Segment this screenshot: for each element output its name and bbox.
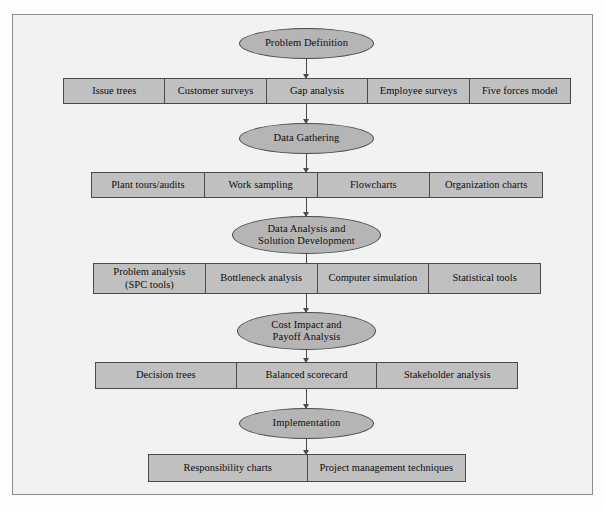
stage-label-data-gathering: Data Gathering: [268, 132, 346, 145]
stage-label-problem-definition: Problem Definition: [259, 37, 354, 50]
tool-cell-customer-surveys[interactable]: Customer surveys: [165, 79, 266, 103]
stage-label-data-analysis: Data Analysis and Solution Development: [252, 223, 361, 248]
arrow-tools-to-data-analysis: [306, 198, 307, 216]
arrow-implementation-to-tools: [306, 439, 307, 454]
diagram-canvas: Problem Definition Issue trees Customer …: [0, 0, 606, 511]
tool-cell-stakeholder-analysis[interactable]: Stakeholder analysis: [377, 363, 517, 388]
arrow-problem-definition-to-tools: [306, 59, 307, 78]
tool-cell-decision-trees[interactable]: Decision trees: [96, 363, 237, 388]
arrow-tools-to-cost-impact: [306, 294, 307, 312]
stage-ellipse-problem-definition: Problem Definition: [239, 28, 374, 59]
tool-row-implementation: Responsibility charts Project management…: [148, 454, 466, 482]
tool-cell-statistical-tools[interactable]: Statistical tools: [429, 264, 540, 293]
tool-cell-five-forces-model[interactable]: Five forces model: [470, 79, 570, 103]
diagram-frame: Problem Definition Issue trees Customer …: [12, 14, 593, 495]
tool-cell-issue-trees[interactable]: Issue trees: [64, 79, 165, 103]
stage-ellipse-cost-impact: Cost Impact and Payoff Analysis: [237, 312, 376, 350]
tool-cell-employee-surveys[interactable]: Employee surveys: [368, 79, 469, 103]
stage-label-cost-impact: Cost Impact and Payoff Analysis: [265, 319, 347, 344]
stage-label-implementation: Implementation: [267, 417, 347, 430]
stage-ellipse-implementation: Implementation: [239, 408, 374, 439]
tool-cell-organization-charts[interactable]: Organization charts: [430, 173, 542, 197]
tool-row-problem-definition: Issue trees Customer surveys Gap analysi…: [63, 78, 571, 104]
arrow-cost-impact-to-tools: [306, 350, 307, 362]
tool-cell-work-sampling[interactable]: Work sampling: [205, 173, 318, 197]
arrow-data-gathering-to-tools: [306, 154, 307, 172]
stage-ellipse-data-gathering: Data Gathering: [239, 123, 374, 154]
tool-cell-problem-analysis-spc[interactable]: Problem analysis (SPC tools): [94, 264, 206, 293]
tool-cell-computer-simulation[interactable]: Computer simulation: [318, 264, 430, 293]
tool-cell-gap-analysis[interactable]: Gap analysis: [267, 79, 368, 103]
arrow-tools-to-data-gathering: [306, 104, 307, 123]
arrow-tools-to-implementation: [306, 389, 307, 408]
tool-cell-flowcharts[interactable]: Flowcharts: [318, 173, 431, 197]
tool-cell-bottleneck-analysis[interactable]: Bottleneck analysis: [206, 264, 318, 293]
tool-cell-plant-tours-audits[interactable]: Plant tours/audits: [92, 173, 205, 197]
stage-ellipse-data-analysis: Data Analysis and Solution Development: [232, 216, 381, 254]
tool-row-data-gathering: Plant tours/audits Work sampling Flowcha…: [91, 172, 543, 198]
tool-cell-responsibility-charts[interactable]: Responsibility charts: [149, 455, 308, 481]
tool-cell-project-management-techniques[interactable]: Project management techniques: [308, 455, 466, 481]
tool-cell-balanced-scorecard[interactable]: Balanced scorecard: [237, 363, 378, 388]
tool-row-cost-impact: Decision trees Balanced scorecard Stakeh…: [95, 362, 518, 389]
tool-row-data-analysis: Problem analysis (SPC tools) Bottleneck …: [93, 263, 541, 294]
